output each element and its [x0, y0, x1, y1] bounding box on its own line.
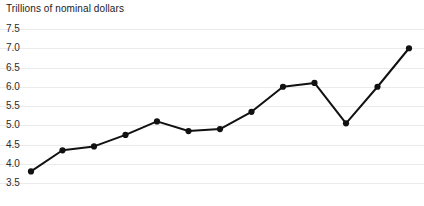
data-point	[185, 128, 191, 134]
y-axis-tick-label: 6.0	[6, 82, 20, 92]
y-axis-tick-label: 5.5	[6, 101, 20, 111]
chart-title: Trillions of nominal dollars	[6, 3, 124, 15]
data-point	[217, 126, 223, 132]
data-point	[374, 84, 380, 90]
plot-area: 3.54.04.55.05.56.06.57.07.5	[0, 18, 424, 206]
y-axis-tick-label: 4.5	[6, 140, 20, 150]
data-point	[122, 132, 128, 138]
data-point	[343, 120, 349, 126]
data-point	[280, 84, 286, 90]
y-axis-tick-label: 3.5	[6, 178, 20, 188]
data-point	[91, 143, 97, 149]
y-axis-tick-label: 4.0	[6, 159, 20, 169]
y-axis-tick-label: 5.0	[6, 120, 20, 130]
data-point	[311, 80, 317, 86]
y-axis-tick-label: 7.5	[6, 24, 20, 34]
y-axis-tick-label: 6.5	[6, 63, 20, 73]
y-axis-tick-label: 7.0	[6, 43, 20, 53]
series-line-chart	[0, 18, 424, 206]
data-point	[248, 109, 254, 115]
chart-container: Trillions of nominal dollars 3.54.04.55.…	[0, 0, 424, 206]
data-point	[28, 168, 34, 174]
series-line	[31, 48, 409, 171]
data-point	[406, 45, 412, 51]
data-point	[59, 147, 65, 153]
data-point	[154, 118, 160, 124]
